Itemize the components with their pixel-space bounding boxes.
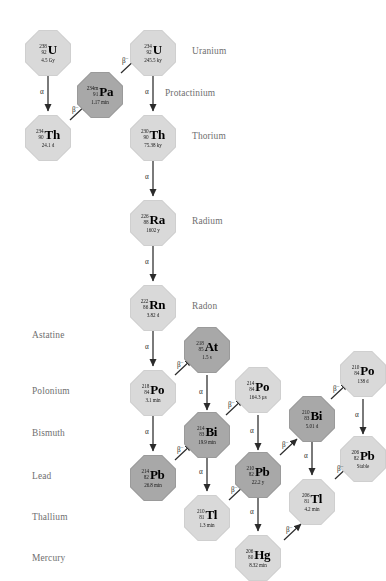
- element-label-mercury: Mercury: [32, 553, 65, 563]
- element-label-protactinium: Protactinium: [165, 88, 215, 98]
- element-label-lead: Lead: [32, 471, 51, 481]
- element-label-bismuth: Bismuth: [32, 428, 65, 438]
- element-label-thallium: Thallium: [32, 512, 68, 522]
- element-label-uranium: Uranium: [192, 46, 226, 56]
- element-label-astatine: Astatine: [32, 330, 64, 340]
- element-label-thorium: Thorium: [192, 131, 226, 141]
- element-label-polonium: Polonium: [32, 386, 70, 396]
- element-label-radium: Radium: [192, 216, 223, 226]
- element-label-radon: Radon: [192, 301, 217, 311]
